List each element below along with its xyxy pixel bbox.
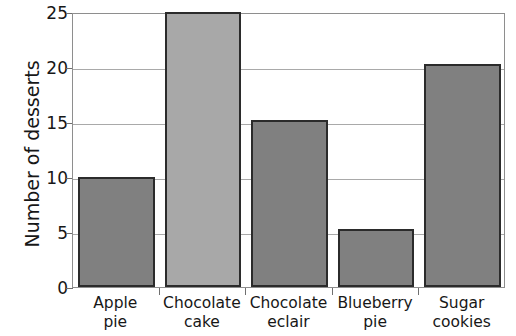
y-axis-tick-labels: 0510152025: [30, 0, 68, 336]
bars-layer: [73, 14, 504, 287]
plot-area: [72, 13, 505, 288]
x-axis-tick-label-line: Sugar: [418, 294, 505, 313]
x-axis-tick-label: Blueberrypie: [332, 294, 419, 332]
x-axis-tick-label-line: cake: [159, 313, 246, 332]
y-axis-tick-label: 15: [30, 115, 68, 132]
x-axis-tick-label: Chocolatecake: [159, 294, 246, 332]
x-axis-tick-label-line: eclair: [245, 313, 332, 332]
x-axis-tick-label-line: pie: [72, 313, 159, 332]
x-axis-tick-label-line: Apple: [72, 294, 159, 313]
bar: [165, 12, 242, 287]
x-axis-tick-label-line: cookies: [418, 313, 505, 332]
x-axis-tick-label-line: pie: [332, 313, 419, 332]
x-axis-tick-label-line: Chocolate: [159, 294, 246, 313]
y-axis-tick-label: 20: [30, 60, 68, 77]
bar: [424, 64, 501, 287]
bar: [251, 120, 328, 287]
x-axis-tick-label: Applepie: [72, 294, 159, 332]
y-axis-tick-label: 25: [30, 5, 68, 22]
x-axis-tick-label: Chocolateeclair: [245, 294, 332, 332]
y-axis-tick-label: 0: [30, 280, 68, 297]
x-axis-tick-label-line: Chocolate: [245, 294, 332, 313]
x-axis-tick-label-line: Blueberry: [332, 294, 419, 313]
y-axis-tick-label: 5: [30, 225, 68, 242]
bar-chart: Number of desserts 0510152025 ApplepieCh…: [0, 0, 516, 336]
bar: [338, 229, 415, 287]
x-axis-tick-label: Sugarcookies: [418, 294, 505, 332]
y-axis-tick-label: 10: [30, 170, 68, 187]
x-axis-tick-labels: ApplepieChocolatecakeChocolateeclairBlue…: [72, 294, 505, 336]
bar: [78, 177, 155, 287]
